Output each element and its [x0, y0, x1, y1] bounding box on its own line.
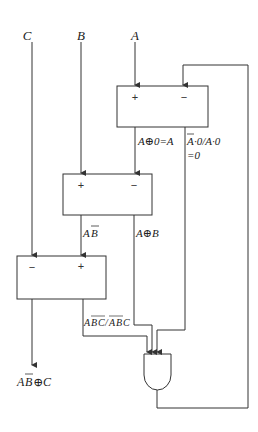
middle-box: [63, 174, 152, 215]
svg-text:A: A: [83, 317, 91, 328]
label-abar-dot0-rest: ·0/A·0: [194, 135, 221, 147]
svg-text:B: B: [25, 375, 33, 389]
middle-box-plus: +: [78, 179, 84, 191]
svg-text:B: B: [91, 317, 97, 328]
logic-diagram: C B A + − A⊕0=A A ·0/A·0 =0 + − A B A⊕B …: [0, 0, 258, 432]
input-label-b: B: [77, 28, 85, 43]
label-a-bbar-b: B: [91, 227, 98, 239]
top-box-plus: +: [132, 91, 138, 103]
svg-text:B: B: [116, 317, 122, 328]
and-gate: [144, 354, 171, 390]
wire-gate-output: [157, 390, 248, 408]
label-a-xor-0: A⊕0=A: [137, 135, 174, 147]
lower-box-plus: +: [78, 260, 84, 272]
middle-box-minus: −: [131, 179, 137, 191]
svg-text:A: A: [108, 317, 116, 328]
label-abc-combo: A B C / A B C: [83, 316, 130, 328]
svg-text:C: C: [98, 317, 105, 328]
input-label-c: C: [23, 28, 32, 43]
top-box-minus: −: [181, 91, 187, 103]
wire-feedback: [183, 65, 248, 408]
wire-top-to-gate: [157, 127, 185, 352]
output-label: A B ⊕C: [16, 374, 52, 389]
input-label-a: A: [130, 28, 139, 43]
svg-text:C: C: [123, 317, 130, 328]
label-a-xor-b: A⊕B: [135, 227, 159, 239]
label-a-bbar-a: A: [82, 227, 90, 239]
svg-text:⊕C: ⊕C: [33, 375, 52, 389]
top-box: [117, 86, 208, 127]
svg-text:A: A: [16, 375, 25, 389]
label-abar-dot0-a: A: [186, 135, 194, 147]
lower-box-minus: −: [29, 261, 35, 273]
label-eq-zero: =0: [187, 149, 200, 161]
